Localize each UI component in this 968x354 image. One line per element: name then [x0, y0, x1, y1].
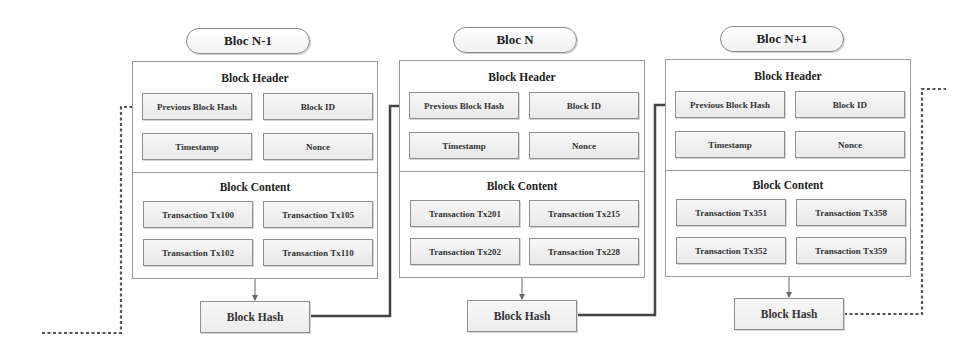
previous-block-hash-field: Previous Block Hash — [409, 92, 519, 119]
section-divider — [399, 171, 645, 172]
transaction-item: Transaction Tx359 — [796, 237, 906, 264]
timestamp-field: Timestamp — [142, 133, 252, 160]
section-divider — [132, 172, 378, 173]
transaction-item: Transaction Tx100 — [143, 201, 253, 228]
timestamp-field: Timestamp — [409, 132, 519, 159]
transaction-item: Transaction Tx352 — [676, 237, 786, 264]
transaction-item: Transaction Tx110 — [263, 239, 373, 266]
block-hash-box: Block Hash — [467, 300, 577, 332]
block-label-n-plus-1: Bloc N+1 — [720, 26, 844, 52]
block-content-title: Block Content — [132, 181, 378, 193]
transaction-item: Transaction Tx358 — [796, 199, 906, 226]
incoming-dotted-link — [42, 107, 141, 333]
block-id-field: Block ID — [263, 93, 373, 120]
block-content-title: Block Content — [399, 180, 645, 192]
transaction-item: Transaction Tx105 — [263, 201, 373, 228]
previous-block-hash-field: Previous Block Hash — [142, 93, 252, 120]
block-header-title: Block Header — [665, 70, 911, 82]
block-header-title: Block Header — [399, 71, 645, 83]
block-label-n: Bloc N — [453, 27, 577, 53]
section-divider — [665, 170, 911, 171]
block-id-field: Block ID — [795, 91, 905, 118]
previous-block-hash-field: Previous Block Hash — [675, 91, 785, 118]
transaction-item: Transaction Tx102 — [143, 239, 253, 266]
block-content-title: Block Content — [665, 179, 911, 191]
transaction-item: Transaction Tx202 — [410, 238, 520, 265]
transaction-item: Transaction Tx215 — [529, 200, 639, 227]
block-id-field: Block ID — [529, 92, 639, 119]
nonce-field: Nonce — [795, 131, 905, 158]
transaction-item: Transaction Tx201 — [410, 200, 520, 227]
block-header-title: Block Header — [132, 72, 378, 84]
block-hash-box: Block Hash — [734, 298, 844, 330]
nonce-field: Nonce — [529, 132, 639, 159]
block-label-n-minus-1: Bloc N-1 — [186, 28, 310, 54]
transaction-item: Transaction Tx228 — [529, 238, 639, 265]
nonce-field: Nonce — [263, 133, 373, 160]
transaction-item: Transaction Tx351 — [676, 199, 786, 226]
block-hash-box: Block Hash — [200, 301, 310, 333]
timestamp-field: Timestamp — [675, 131, 785, 158]
